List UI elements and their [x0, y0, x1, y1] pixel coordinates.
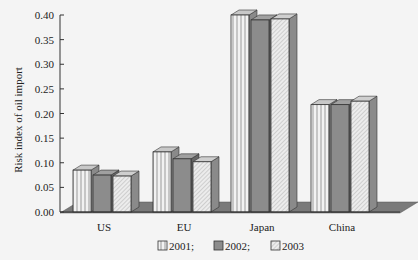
legend-item-2003: 2003	[271, 240, 305, 252]
bar-group-us	[73, 165, 139, 212]
bar-japan-2001	[231, 15, 249, 212]
x-axis-labels: USEUJapanChina	[97, 221, 355, 233]
y-tick-label: 0.30	[35, 58, 55, 70]
legend-label: 2001;	[169, 240, 194, 252]
bar-group-eu	[153, 147, 219, 212]
y-tick-label: 0.10	[35, 157, 55, 169]
x-category-label: China	[329, 221, 355, 233]
bar-us-2001	[73, 170, 91, 212]
y-tick-label: 0.40	[35, 9, 55, 21]
bar-china-2003	[351, 101, 369, 212]
x-category-label: EU	[177, 221, 192, 233]
bar-china-2002	[331, 105, 349, 212]
y-tick-label: 0.05	[35, 181, 55, 193]
x-category-label: US	[97, 221, 111, 233]
bar-group-china	[311, 96, 377, 212]
bars-group	[73, 10, 377, 212]
x-category-label: Japan	[249, 221, 275, 233]
legend-item-2002: 2002;	[214, 240, 250, 252]
legend-swatch	[271, 241, 280, 250]
legend: 2001;2002;2003	[158, 240, 305, 252]
bar-us-2003	[113, 176, 131, 212]
y-tick-label: 0.00	[35, 206, 55, 218]
y-tick-label: 0.15	[35, 132, 55, 144]
y-axis-label: Risk index of oil import	[12, 67, 24, 173]
bar-group-japan	[231, 10, 297, 212]
legend-label: 2002;	[225, 240, 250, 252]
bar-japan-2003	[271, 19, 289, 212]
bar-eu-2002	[173, 159, 191, 212]
y-tick-label: 0.35	[35, 34, 55, 46]
legend-swatch	[158, 241, 167, 250]
bar-us-2002	[93, 175, 111, 212]
y-tick-label: 0.25	[35, 83, 55, 95]
bar-eu-2003	[193, 162, 211, 212]
y-tick-label: 0.20	[35, 108, 55, 120]
legend-label: 2003	[282, 240, 305, 252]
legend-item-2001: 2001;	[158, 240, 194, 252]
bar-china-2001	[311, 105, 329, 212]
bar-eu-2001	[153, 152, 171, 212]
bar-japan-2002	[251, 20, 269, 212]
bar-chart: 0.000.050.100.150.200.250.300.350.40 USE…	[0, 0, 418, 260]
legend-swatch	[214, 241, 223, 250]
